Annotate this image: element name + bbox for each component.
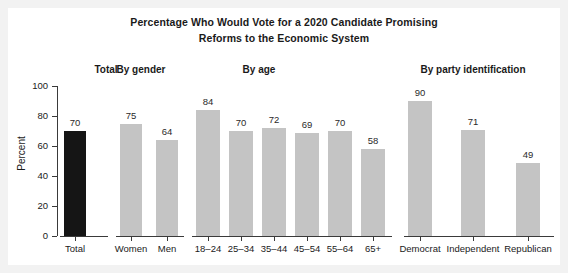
bar[interactable] xyxy=(64,131,86,236)
bar[interactable] xyxy=(361,149,385,236)
group-header: By age xyxy=(214,64,304,75)
x-axis-tick-mark xyxy=(528,237,529,241)
group-header: By party identification xyxy=(393,64,553,75)
bar-value-label: 64 xyxy=(144,127,190,137)
bar-value-label: 70 xyxy=(316,118,364,128)
x-axis-tick-mark xyxy=(75,237,76,241)
x-axis-segment xyxy=(192,236,392,237)
x-axis-tick-mark xyxy=(208,237,209,241)
bar-value-label: 90 xyxy=(396,88,444,98)
x-axis-segment xyxy=(404,236,554,237)
bar-value-label: 70 xyxy=(52,118,98,128)
x-axis-tick-mark xyxy=(167,237,168,241)
y-axis-tick-mark xyxy=(52,176,57,177)
bar[interactable] xyxy=(516,163,540,237)
chart-page: Percentage Who Would Vote for a 2020 Can… xyxy=(0,0,568,273)
x-axis-tick-mark xyxy=(340,237,341,241)
y-axis-tick-mark xyxy=(52,86,57,87)
y-axis-tick-mark xyxy=(52,146,57,147)
bar-value-label: 49 xyxy=(504,150,552,160)
x-axis-tick-mark xyxy=(131,237,132,241)
y-axis-tick-label: 0 xyxy=(18,231,48,240)
x-axis-segment xyxy=(116,236,184,237)
y-axis-tick-mark xyxy=(52,236,57,237)
x-axis-tick-mark xyxy=(274,237,275,241)
plot-area: 70Total75Women64Men8418–247025–347235–44… xyxy=(8,8,560,265)
y-axis-tick-label: 100 xyxy=(18,81,48,90)
bar[interactable] xyxy=(461,130,485,237)
bar-value-label: 58 xyxy=(349,136,397,146)
x-axis-tick-mark xyxy=(473,237,474,241)
y-axis-tick-label: 20 xyxy=(18,201,48,210)
x-axis-tick-mark xyxy=(420,237,421,241)
bar[interactable] xyxy=(408,101,432,236)
group-header: By gender xyxy=(96,64,186,75)
bar[interactable] xyxy=(328,131,352,236)
x-axis-tick-mark xyxy=(241,237,242,241)
bar[interactable] xyxy=(229,131,253,236)
y-axis-tick-mark xyxy=(52,206,57,207)
x-axis-category-label: Republican xyxy=(493,243,563,254)
y-axis-tick-label: 40 xyxy=(18,171,48,180)
x-axis-tick-mark xyxy=(373,237,374,241)
bar-value-label: 84 xyxy=(184,97,232,107)
y-axis-tick-label: 80 xyxy=(18,111,48,120)
x-axis-tick-mark xyxy=(307,237,308,241)
chart-panel: Percentage Who Would Vote for a 2020 Can… xyxy=(8,8,560,265)
y-axis-tick-mark xyxy=(52,116,57,117)
bar-value-label: 75 xyxy=(108,111,154,121)
bar[interactable] xyxy=(156,140,178,236)
bar-value-label: 71 xyxy=(449,117,497,127)
y-axis-tick-label: 60 xyxy=(18,141,48,150)
bar[interactable] xyxy=(196,110,220,236)
bar[interactable] xyxy=(120,124,142,237)
bar[interactable] xyxy=(262,128,286,236)
bar[interactable] xyxy=(295,133,319,237)
x-axis-segment xyxy=(60,236,108,237)
